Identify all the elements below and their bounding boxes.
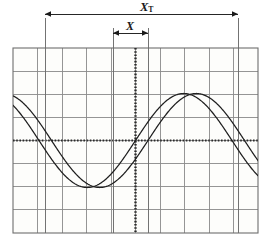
figure-canvas [0,0,265,241]
dimension-arrows [45,11,238,35]
period-dimension-label: XT [140,1,154,14]
waveform-figure: XT X [0,0,265,241]
period-arrowhead-left [45,11,51,16]
phase-shift-arrowhead-left [113,30,119,35]
phase-dimension-label: X [126,20,134,32]
phase-label-text: X [126,19,134,33]
period-arrowhead-right [232,11,238,16]
period-label-subscript: T [148,5,153,14]
phase-shift-arrowhead-right [142,30,148,35]
